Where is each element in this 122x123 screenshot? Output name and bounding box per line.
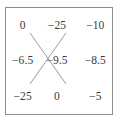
grid-cell-row0-col1: −25 — [41, 8, 76, 43]
cell-value-row2-col0: −25 — [14, 91, 32, 103]
cell-value-row1-col0: −6.5 — [12, 55, 33, 67]
grid-cell-row2-col1: 0 — [41, 79, 76, 114]
grid-cell-row2-col2: −5 — [77, 79, 112, 114]
grid-cell-row0-col0: 0 — [6, 8, 41, 43]
cell-value-row0-col0: 0 — [20, 20, 26, 32]
cell-value-row1-col2: −8.5 — [85, 55, 106, 67]
number-grid: 0 −25 −10 −6.5 −9.5 −8.5 −25 0 −5 — [6, 8, 112, 114]
cell-value-row2-col2: −5 — [89, 91, 101, 103]
grid-cell-row1-col2: −8.5 — [77, 43, 112, 78]
figure-root: 0 −25 −10 −6.5 −9.5 −8.5 −25 0 −5 — [0, 0, 122, 123]
cell-value-row2-col1: 0 — [54, 91, 60, 103]
grid-cell-row0-col2: −10 — [77, 8, 112, 43]
cell-value-row0-col1: −25 — [48, 20, 66, 32]
grid-cell-row1-col0: −6.5 — [6, 43, 41, 78]
cell-value-row0-col2: −10 — [86, 20, 104, 32]
grid-cell-row2-col0: −25 — [6, 79, 41, 114]
cell-value-row1-col1: −9.5 — [46, 55, 67, 67]
grid-cell-row1-col1: −9.5 — [41, 43, 76, 78]
